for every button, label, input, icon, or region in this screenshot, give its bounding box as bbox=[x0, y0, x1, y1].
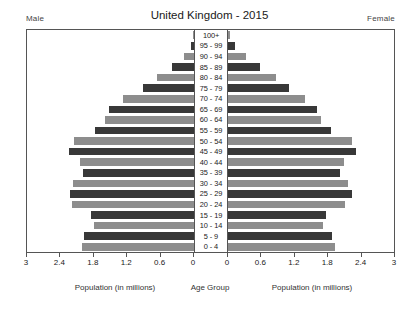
axis-tick-label: 0.6 bbox=[255, 258, 266, 267]
female-bar-row bbox=[228, 146, 396, 157]
female-bar bbox=[228, 31, 230, 39]
female-bar-row bbox=[228, 72, 396, 83]
male-bar bbox=[94, 222, 194, 230]
female-bar-row bbox=[228, 104, 396, 115]
male-bar-row bbox=[27, 220, 194, 231]
age-group-label: 75 - 79 bbox=[195, 83, 227, 94]
female-bar bbox=[228, 106, 317, 114]
male-bar bbox=[84, 232, 194, 240]
axis-tick bbox=[126, 253, 127, 257]
female-bar-row bbox=[228, 231, 396, 242]
male-bar-row bbox=[27, 146, 194, 157]
female-bar bbox=[228, 201, 345, 209]
center-axis-caption: Age Group bbox=[191, 283, 230, 292]
male-x-axis: 32.41.81.20.60 bbox=[26, 253, 193, 271]
female-bar bbox=[228, 148, 356, 156]
female-bar-row bbox=[228, 242, 396, 252]
male-bar bbox=[82, 243, 194, 251]
age-group-label: 15 - 19 bbox=[195, 210, 227, 221]
female-bar-row bbox=[228, 168, 396, 179]
female-bar bbox=[228, 74, 276, 82]
female-bar-row bbox=[228, 199, 396, 210]
male-bar-row bbox=[27, 231, 194, 242]
male-bar-row bbox=[27, 93, 194, 104]
age-group-label: 100+ bbox=[195, 30, 227, 41]
male-bar-row bbox=[27, 41, 194, 52]
female-bar-row bbox=[228, 115, 396, 126]
female-bar bbox=[228, 222, 323, 230]
axis-tick-label: 3 bbox=[24, 258, 28, 267]
axis-tick-label: 1.8 bbox=[87, 258, 98, 267]
axis-tick-label: 0.6 bbox=[154, 258, 165, 267]
axis-tick bbox=[294, 253, 295, 257]
age-group-label: 20 - 24 bbox=[195, 199, 227, 210]
male-bar-row bbox=[27, 62, 194, 73]
male-bar bbox=[172, 63, 194, 71]
male-bar-row bbox=[27, 189, 194, 200]
axis-tick-label: 1.2 bbox=[288, 258, 299, 267]
male-bar bbox=[72, 201, 194, 209]
age-group-label: 65 - 69 bbox=[195, 104, 227, 115]
age-group-label-column: 100+95 - 9990 - 9485 - 8980 - 8475 - 797… bbox=[194, 30, 228, 252]
male-bar-row bbox=[27, 199, 194, 210]
female-bar bbox=[228, 180, 348, 188]
male-bar bbox=[105, 116, 194, 124]
age-group-label: 35 - 39 bbox=[195, 168, 227, 179]
male-bar-row bbox=[27, 168, 194, 179]
axis-tick bbox=[327, 253, 328, 257]
male-bar-row bbox=[27, 104, 194, 115]
male-bar bbox=[184, 53, 194, 61]
axis-tick bbox=[59, 253, 60, 257]
male-bar bbox=[73, 180, 194, 188]
age-group-label: 90 - 94 bbox=[195, 51, 227, 62]
age-group-label: 80 - 84 bbox=[195, 72, 227, 83]
age-group-label: 70 - 74 bbox=[195, 93, 227, 104]
female-bar-row bbox=[228, 62, 396, 73]
age-group-label: 10 - 14 bbox=[195, 220, 227, 231]
axis-tick-label: 2.4 bbox=[54, 258, 65, 267]
axis-tick bbox=[394, 253, 395, 257]
axis-tick bbox=[227, 253, 228, 257]
male-bar bbox=[95, 127, 194, 135]
age-group-label: 25 - 29 bbox=[195, 189, 227, 200]
male-bar bbox=[74, 137, 194, 145]
axis-tick bbox=[160, 253, 161, 257]
male-bar-row bbox=[27, 242, 194, 252]
axis-tick bbox=[26, 253, 27, 257]
age-group-label: 30 - 34 bbox=[195, 178, 227, 189]
female-bar bbox=[228, 169, 340, 177]
plot-area: 100+95 - 9990 - 9485 - 8980 - 8475 - 797… bbox=[26, 29, 395, 253]
male-bar bbox=[123, 95, 194, 103]
axis-tick-label: 0 bbox=[225, 258, 229, 267]
female-bar bbox=[228, 232, 332, 240]
male-bar-row bbox=[27, 51, 194, 62]
population-pyramid-chart: Male United Kingdom - 2015 Female 100+95… bbox=[0, 0, 419, 315]
male-bar bbox=[69, 148, 194, 156]
age-group-label: 60 - 64 bbox=[195, 115, 227, 126]
male-bar-row bbox=[27, 210, 194, 221]
female-bar-row bbox=[228, 157, 396, 168]
male-bar bbox=[109, 106, 194, 114]
female-bars-panel bbox=[228, 30, 396, 252]
axis-tick-label: 0 bbox=[191, 258, 195, 267]
male-bar-row bbox=[27, 178, 194, 189]
female-bar bbox=[228, 63, 260, 71]
age-group-label: 0 - 4 bbox=[195, 242, 227, 252]
female-bar-row bbox=[228, 178, 396, 189]
male-bar-row bbox=[27, 115, 194, 126]
male-bar bbox=[143, 84, 194, 92]
age-group-label: 95 - 99 bbox=[195, 41, 227, 52]
axis-tick bbox=[260, 253, 261, 257]
male-bar-row bbox=[27, 30, 194, 41]
female-bar-row bbox=[228, 51, 396, 62]
female-side-label: Female bbox=[367, 14, 395, 23]
left-axis-caption: Population (in millions) bbox=[75, 283, 155, 292]
female-bar bbox=[228, 190, 352, 198]
axis-tick-label: 1.8 bbox=[322, 258, 333, 267]
female-bar-row bbox=[228, 30, 396, 41]
male-bar bbox=[70, 190, 194, 198]
female-bar-row bbox=[228, 136, 396, 147]
female-bar-row bbox=[228, 125, 396, 136]
age-group-label: 45 - 49 bbox=[195, 146, 227, 157]
male-bar bbox=[91, 211, 194, 219]
